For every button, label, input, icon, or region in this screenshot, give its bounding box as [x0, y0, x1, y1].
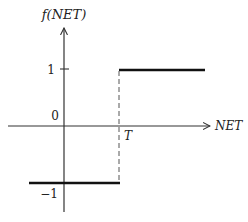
step-function-diagram: f(NET) 1 0 T NET −1 — [0, 0, 248, 222]
y-axis-label: f(NET) — [41, 7, 87, 22]
x-axis-label: NET — [214, 119, 243, 133]
y-tick-label-high: 1 — [47, 63, 55, 77]
threshold-label: T — [124, 129, 133, 143]
origin-label: 0 — [51, 109, 59, 123]
y-tick-label-low: −1 — [40, 187, 58, 201]
